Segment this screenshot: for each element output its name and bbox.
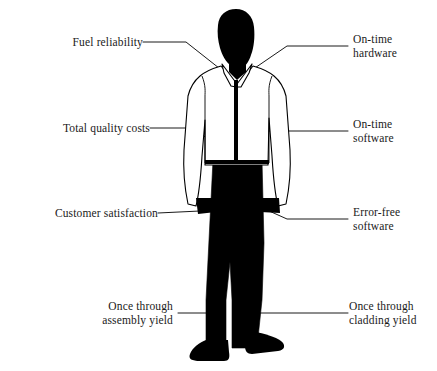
leader-line-on-time-hardware [249,46,348,72]
leader-line-fuel-reliability [143,42,224,72]
right-shoe [245,332,284,354]
left-hand [196,198,216,214]
callout-label-on-time-software: On-timesoftware [353,117,437,145]
callout-label-total-quality-costs: Total quality costs [10,121,150,135]
trousers-legs [206,160,264,348]
left-shoe [189,340,229,361]
waistband [205,160,269,164]
callout-label-fuel-reliability: Fuel reliability [10,35,143,49]
callout-label-on-time-hardware: On-timehardware [353,32,437,60]
person-silhouette [184,9,291,361]
right-hand [259,198,280,213]
callout-label-once-through-assembly-yield: Once throughassembly yield [38,299,173,327]
diagram-canvas: Fuel reliability Total quality costs Cus… [0,0,437,371]
necktie [234,80,238,162]
callout-label-once-through-cladding-yield: Once throughcladding yield [349,299,437,327]
callout-label-error-free-software: Error-freesoftware [353,205,437,233]
callout-label-customer-satisfaction: Customer satisfaction [5,206,158,220]
